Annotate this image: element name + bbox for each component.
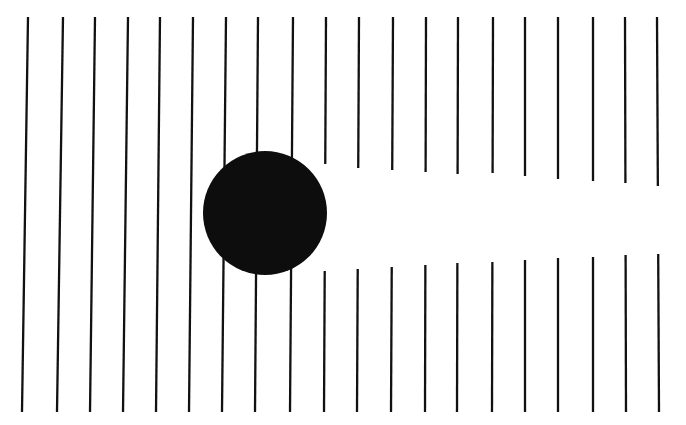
grating-line-upper-segment	[325, 17, 326, 164]
black-disk	[203, 151, 327, 275]
grating-line-lower-segment	[357, 269, 358, 412]
grating-line-upper-segment	[358, 17, 359, 168]
grating-line-upper-segment	[392, 17, 393, 170]
grating-line-upper-segment	[657, 17, 658, 186]
illusory-contour-figure	[0, 0, 686, 425]
grating-line-lower-segment	[324, 271, 325, 412]
figure-canvas	[0, 0, 686, 425]
grating-line-lower-segment	[391, 267, 392, 412]
figure-background	[0, 0, 686, 425]
grating-line-lower-segment	[658, 254, 659, 412]
